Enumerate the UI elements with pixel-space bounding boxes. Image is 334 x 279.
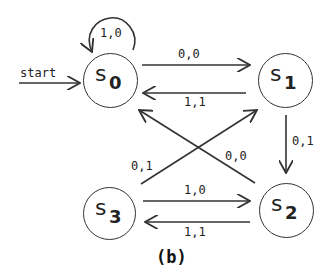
state-s0: s 0 — [83, 53, 138, 108]
state-s2: s 2 — [259, 183, 314, 238]
state-s0-subscript: 0 — [109, 74, 122, 92]
state-s1: s 1 — [258, 53, 313, 108]
edge-s2-s0 — [139, 110, 255, 183]
label-s0-s0: 1,0 — [100, 27, 122, 39]
label-s2-s3: 1,1 — [184, 226, 206, 238]
state-s3-subscript: 3 — [109, 208, 122, 226]
state-s1-letter: s — [270, 63, 281, 85]
label-s3-s2: 1,0 — [184, 184, 206, 196]
state-s3: s 3 — [83, 187, 136, 240]
label-s3-s1: 0,1 — [131, 160, 153, 172]
state-s3-letter: s — [95, 197, 106, 219]
label-s1-s2: 0,1 — [292, 135, 314, 147]
state-s1-subscript: 1 — [284, 74, 297, 92]
label-s1-s0: 1,1 — [184, 96, 206, 108]
state-s2-subscript: 2 — [285, 204, 298, 222]
state-s0-letter: s — [95, 63, 106, 85]
label-s0-s1: 0,0 — [178, 48, 200, 60]
start-label: start — [20, 67, 56, 79]
state-s2-letter: s — [271, 193, 282, 215]
figure-caption: (b) — [156, 247, 187, 267]
label-s2-s0: 0,0 — [225, 150, 247, 162]
